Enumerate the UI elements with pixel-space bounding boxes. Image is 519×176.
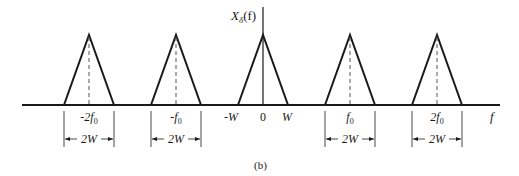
arrowhead-left-icon xyxy=(152,137,157,141)
width-label: 2W xyxy=(168,132,185,146)
arrowhead-left-icon xyxy=(65,137,70,141)
tick-label-minus-f0: -f0 xyxy=(170,110,181,126)
y-axis-label-arg: (f) xyxy=(243,8,256,23)
tick-label-zero: 0 xyxy=(260,110,266,124)
tick-label-sub: 0 xyxy=(178,117,182,126)
tick-label-sub: 0 xyxy=(350,117,354,126)
tick-label-minus-2f0: -2f0 xyxy=(80,110,97,126)
tick-label-sub: 0 xyxy=(440,117,444,126)
sampled-spectrum-diagram: Xδ(f) f (b) -W 0 W -2f0 -f0 f0 2f0 2W 2W… xyxy=(0,0,519,176)
tick-label-sub: 0 xyxy=(94,117,98,126)
x-axis-label: f xyxy=(490,109,496,124)
tick-label-w: W xyxy=(282,110,293,124)
width-label: 2W xyxy=(81,132,98,146)
tick-label-2f0: 2f0 xyxy=(430,110,443,126)
figure-caption: (b) xyxy=(254,159,267,172)
arrowhead-left-icon xyxy=(413,137,418,141)
tick-label-minus-w: -W xyxy=(224,110,239,124)
arrowhead-right-icon xyxy=(456,137,461,141)
arrowhead-right-icon xyxy=(108,137,113,141)
y-axis-label: Xδ(f) xyxy=(230,8,256,25)
width-label: 2W xyxy=(429,132,446,146)
tick-label-f0: f0 xyxy=(346,110,353,126)
arrowhead-right-icon xyxy=(195,137,200,141)
arrowhead-right-icon xyxy=(369,137,374,141)
arrowhead-left-icon xyxy=(326,137,331,141)
width-label: 2W xyxy=(342,132,359,146)
